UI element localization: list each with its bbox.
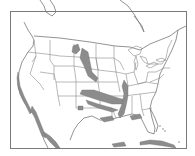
us-map bbox=[0, 0, 195, 156]
region-texas-spot bbox=[78, 106, 83, 110]
